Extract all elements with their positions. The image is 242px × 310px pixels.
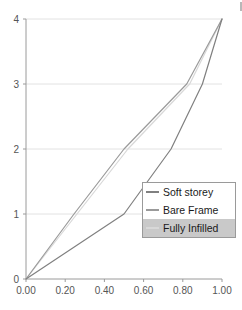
legend-swatch-icon [146, 209, 159, 211]
chart-legend: Soft storeyBare FrameFully Infilled [142, 182, 236, 238]
x-tick-label: 0.80 [173, 285, 193, 296]
legend-item[interactable]: Bare Frame [143, 201, 235, 219]
x-tick-label: 0.00 [16, 285, 36, 296]
x-tick-label: 1.00 [212, 285, 232, 296]
y-tick-label: 0 [13, 274, 19, 285]
legend-item-label: Soft storey [163, 186, 213, 198]
y-tick-label: 4 [13, 14, 19, 25]
y-tick-labels: 01234 [13, 14, 26, 285]
y-tick-label: 1 [13, 209, 19, 220]
legend-item-label: Bare Frame [163, 204, 218, 216]
legend-item[interactable]: Soft storey [143, 183, 235, 201]
line-chart: 01234 0.000.200.400.600.801.00 [0, 0, 242, 310]
legend-item-label: Fully Infilled [163, 222, 218, 234]
x-tick-label: 0.20 [55, 285, 75, 296]
x-tick-label: 0.40 [95, 285, 115, 296]
legend-swatch-icon [146, 227, 159, 229]
x-tick-label: 0.60 [134, 285, 154, 296]
legend-swatch-icon [146, 191, 159, 193]
corner-artifact [240, 2, 242, 11]
y-tick-label: 2 [13, 144, 19, 155]
chart-page: 01234 0.000.200.400.600.801.00 Soft stor… [0, 0, 242, 310]
x-tick-labels: 0.000.200.400.600.801.00 [16, 279, 232, 296]
y-tick-label: 3 [13, 79, 19, 90]
legend-item[interactable]: Fully Infilled [143, 219, 235, 237]
